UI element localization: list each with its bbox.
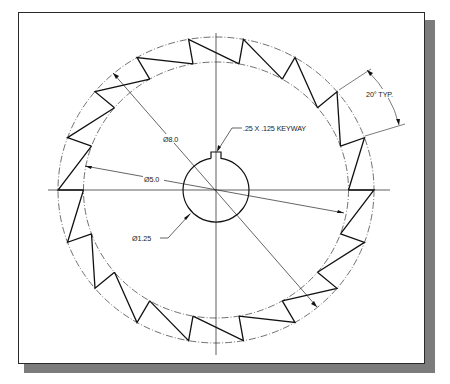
arrowhead-icon bbox=[113, 73, 119, 79]
tooth-extension-line-upper bbox=[339, 69, 371, 90]
arrowhead-icon bbox=[311, 301, 317, 307]
arrowhead-icon bbox=[184, 213, 191, 220]
outer-diameter-label: Ø8.0 bbox=[163, 135, 178, 144]
ratchet-drawing: Ø8.0 Ø5.0 Ø1.25 .25 X .125 KEYWAY 20° TY… bbox=[0, 0, 450, 384]
root-diameter-label: Ø5.0 bbox=[144, 175, 159, 184]
tooth-extension-line-lower bbox=[365, 124, 405, 136]
bore-diameter-label: Ø1.25 bbox=[132, 234, 151, 243]
arrowhead-icon bbox=[85, 166, 92, 169]
tooth-angle-label: 20° TYP. bbox=[366, 90, 393, 99]
keyway-label: .25 X .125 KEYWAY bbox=[243, 124, 306, 133]
arrowhead-icon bbox=[337, 210, 344, 213]
arrowhead-icon bbox=[396, 119, 400, 125]
keyway-leader-line bbox=[218, 128, 242, 150]
root-diameter-dimension-line bbox=[85, 166, 344, 213]
